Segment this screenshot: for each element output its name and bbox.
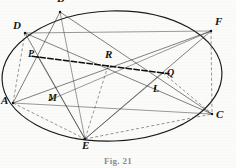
segment-Q-C-dashed (163, 73, 212, 114)
conic-outline (0, 7, 224, 145)
point-label-r: R (105, 49, 112, 60)
vertex-dot-F (210, 30, 213, 33)
segment-A-E-dashed (13, 103, 85, 139)
vertex-dot-C (211, 113, 214, 116)
point-label-p: P (28, 49, 34, 59)
point-label-f: F (215, 16, 222, 27)
point-label-b: B (57, 0, 64, 4)
point-label-q: Q (167, 68, 174, 78)
segment-D-F (25, 31, 211, 33)
vertex-dot-Q (162, 72, 164, 74)
segment-R-E-dashed (85, 66, 108, 139)
geometry-drawing (0, 0, 236, 168)
segment-E-C-dashed (85, 114, 212, 139)
vertex-dot-B (59, 11, 62, 14)
point-label-e: E (82, 140, 89, 151)
vertex-dot-D (24, 32, 27, 35)
vertex-dot-A (12, 102, 15, 105)
point-label-l: L (153, 84, 159, 94)
vertex-dot-layer (12, 11, 214, 141)
vertex-dot-R (107, 65, 109, 67)
point-label-a: A (1, 95, 8, 106)
point-label-d: D (13, 20, 21, 31)
figure-caption: Fig. 21 (0, 156, 236, 168)
vertex-dot-P (37, 56, 39, 58)
point-label-c: C (216, 109, 223, 120)
segment-A-C (13, 103, 212, 114)
segment-P-E (38, 57, 85, 139)
point-label-m: M (48, 93, 57, 103)
conic-ellipse (0, 7, 224, 145)
segment-M-F (50, 31, 211, 100)
chord-layer (13, 12, 212, 139)
segment-B-E (60, 12, 85, 139)
segment-E-Q (85, 73, 163, 139)
figure-container: ABCDEFPQRLM Fig. 21 (0, 0, 236, 168)
